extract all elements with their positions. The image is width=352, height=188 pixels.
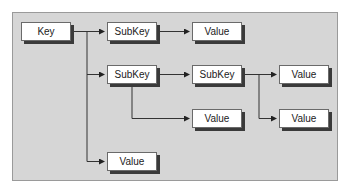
node-label: Key bbox=[37, 26, 54, 37]
node-value: Value bbox=[107, 152, 157, 171]
node-label: Value bbox=[205, 26, 230, 37]
node-label: SubKey bbox=[114, 69, 149, 80]
node-subkey: SubKey bbox=[107, 22, 157, 41]
node-label: Value bbox=[120, 156, 145, 167]
node-label: SubKey bbox=[114, 26, 149, 37]
node-key: Key bbox=[21, 22, 71, 41]
node-label: Value bbox=[292, 69, 317, 80]
node-label: SubKey bbox=[199, 69, 234, 80]
node-subkey: SubKey bbox=[107, 65, 157, 84]
node-label: Value bbox=[292, 113, 317, 124]
node-subkey: SubKey bbox=[192, 65, 242, 84]
node-value: Value bbox=[279, 65, 329, 84]
node-label: Value bbox=[205, 113, 230, 124]
node-value: Value bbox=[192, 109, 242, 128]
node-value: Value bbox=[279, 109, 329, 128]
node-value: Value bbox=[192, 22, 242, 41]
